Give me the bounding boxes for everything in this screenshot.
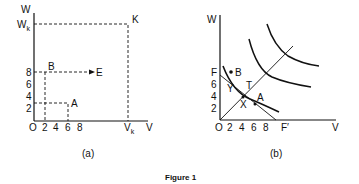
y-axis-label: W (21, 4, 31, 15)
panel-a-caption: (a) (82, 148, 94, 159)
x-axis-label: V (146, 122, 153, 133)
x-tick: 6 (251, 122, 257, 133)
y-tick: 2 (211, 103, 217, 114)
x-axis-label: V (332, 122, 339, 133)
point-y-label: Y (227, 83, 234, 94)
x-tick: 4 (53, 122, 59, 133)
f-prime-label: F′ (281, 122, 289, 133)
x-tick: 8 (77, 122, 83, 133)
indifference-curve-3 (267, 24, 319, 66)
origin-label: O (215, 122, 223, 133)
wk-label: Wk (17, 19, 30, 32)
point-b-label: B (48, 61, 55, 72)
y-axis-label: W (207, 14, 217, 25)
panel-a: W Wk 8 6 4 2 O 2 4 6 8 Vk V K B E A (a) (17, 4, 153, 159)
x-tick: 8 (263, 122, 269, 133)
panel-b: W F 6 4 2 O 2 4 6 8 F′ V B Y T X A (b) (207, 14, 339, 159)
x-tick: 4 (239, 122, 245, 133)
y-tick: 6 (211, 79, 217, 90)
y-tick: 4 (26, 91, 32, 102)
a-guide (34, 103, 68, 121)
y-tick: 6 (26, 79, 32, 90)
indifference-curve-2 (249, 39, 311, 87)
origin-label: O (29, 122, 37, 133)
vk-label: Vk (124, 122, 135, 135)
x-tick: 6 (65, 122, 71, 133)
figure-caption: Figure 1 (165, 173, 197, 182)
y-tick: 8 (26, 67, 32, 78)
point-x-label: X (240, 99, 247, 110)
k-guide (34, 24, 128, 121)
point-a-label: A (257, 92, 264, 103)
point-b-dot (229, 70, 233, 74)
point-a-label: A (71, 98, 78, 109)
y-tick: 4 (211, 91, 217, 102)
point-t-label: T (246, 80, 252, 91)
y-tick: 2 (26, 103, 32, 114)
point-k-label: K (132, 14, 139, 25)
panel-b-caption: (b) (270, 148, 282, 159)
f-label: F (211, 67, 217, 78)
x-tick: 2 (227, 122, 233, 133)
point-e-label: E (96, 67, 103, 78)
x-tick: 2 (42, 122, 48, 133)
figure-canvas: W Wk 8 6 4 2 O 2 4 6 8 Vk V K B E A (a) (0, 0, 359, 184)
arrow-icon (89, 70, 95, 75)
point-b-label: B (235, 67, 242, 78)
